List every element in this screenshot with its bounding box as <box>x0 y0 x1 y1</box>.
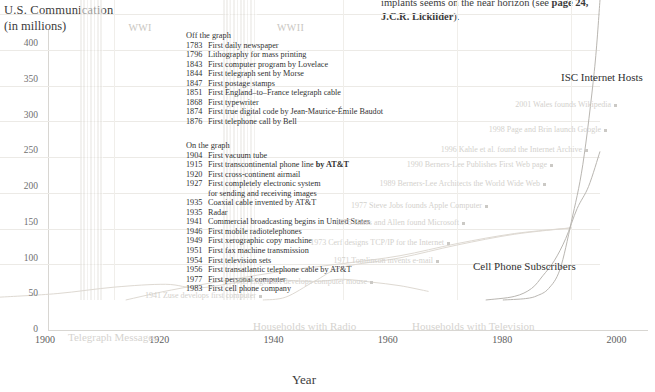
annotation-marker-dot <box>436 260 439 263</box>
off-the-graph-list: Off the graph 1783First daily newspaper1… <box>186 31 383 126</box>
annotation-internet-archive: 1996 Kahle et al. found the Internet Arc… <box>0 145 588 154</box>
list-item-year: 1847 <box>186 79 208 89</box>
annotation-label: 1963 Engelbart develops computer mouse <box>232 277 367 286</box>
x-axis-tick-label: 2000 <box>606 334 626 345</box>
annotation-marker-dot <box>543 183 546 186</box>
annotation-google: 1998 Page and Brin launch Google <box>0 125 607 134</box>
list-item-text: First cross-continent airmail <box>208 170 300 179</box>
series-label-telegraph-messages: Telegraph Messages <box>68 331 157 343</box>
y-axis-tick-label: 0 <box>0 324 38 334</box>
x-axis-title: Year <box>292 372 316 388</box>
annotation-label: 1989 Berners-Lee Architects the World Wi… <box>379 179 540 188</box>
list-item-year: 1844 <box>186 69 208 79</box>
list-item-text: First mobile radiotelephones <box>208 227 302 236</box>
annotation-label: 1973 Cerf designs TCP/IP for the Interne… <box>310 238 444 247</box>
annotation-label: 1996 Kahle et al. found the Internet Arc… <box>441 145 582 154</box>
annotation-wikipedia: 2001 Wales founds Wikipedia <box>0 100 617 109</box>
list-item: 1851First England–to–France telegraph ca… <box>186 88 383 98</box>
annotation-apple: 1977 Steve Jobs founds Apple Computer <box>0 201 488 210</box>
list-item: 1920First cross-continent airmail <box>186 170 370 180</box>
list-item-year: 1946 <box>186 227 208 237</box>
list-item: for sending and receiving images <box>186 189 370 199</box>
annotation-zuse: 1941 Zuse develops first computer <box>0 291 262 300</box>
list-item: 1951First fax machine transmission <box>186 246 370 256</box>
y-axis-tick-label: 350 <box>0 74 38 84</box>
list-item: 1843First computer program by Lovelace <box>186 60 383 70</box>
annotation-label: 1941 Zuse develops first computer <box>145 291 256 300</box>
list-item-year: 1783 <box>186 41 208 51</box>
x-axis-tick-label: 1960 <box>378 334 398 345</box>
list-item: 1783First daily newspaper <box>186 41 383 51</box>
y-axis-tick-label: 300 <box>0 110 38 120</box>
list-item-year: 1851 <box>186 88 208 98</box>
series-label-households-with-television: Households with Television <box>412 320 534 332</box>
war-band-label-wwi: WWI <box>128 22 151 33</box>
off-the-graph-header: Off the graph <box>186 31 383 41</box>
annotation-marker-dot <box>614 104 617 107</box>
series-line-cell-phone-subscribers <box>486 151 600 300</box>
annotation-marker-dot <box>485 205 488 208</box>
annotation-marker-dot <box>370 281 373 284</box>
list-item-text: First fax machine transmission <box>208 246 309 255</box>
list-item-text: for sending and receiving images <box>208 189 317 198</box>
annotation-marker-dot <box>585 149 588 152</box>
list-item-text: First daily newspaper <box>208 41 279 50</box>
annotation-label: 1971 Tomlinson invents e-mail <box>333 256 433 265</box>
list-item-year: 1951 <box>186 246 208 256</box>
series-label-cell-phone-subscribers: Cell Phone Subscribers <box>473 260 576 272</box>
annotation-label: 2001 Wales founds Wikipedia <box>515 100 611 109</box>
list-item: 1946First mobile radiotelephones <box>186 227 370 237</box>
annotation-marker-dot <box>447 242 450 245</box>
list-item: 1844First telegraph sent by Morse <box>186 69 383 79</box>
annotation-marker-dot <box>604 129 607 132</box>
x-axis-tick-label: 1980 <box>492 334 512 345</box>
list-item-year: 1920 <box>186 170 208 180</box>
annotation-email: 1971 Tomlinson invents e-mail <box>0 256 439 265</box>
list-item-year: 1796 <box>186 50 208 60</box>
list-item: 1796Lithography for mass printing <box>186 50 383 60</box>
annotation-mouse: 1963 Engelbart develops computer mouse <box>0 277 373 286</box>
list-item-text: First transatlantic telephone cable by A… <box>208 265 351 274</box>
list-item-text: First postage stamps <box>208 79 275 88</box>
annotation-label: 1977 Steve Jobs founds Apple Computer <box>351 201 482 210</box>
list-item-text: First telegraph sent by Morse <box>208 69 304 78</box>
annotation-first-web-page: 1990 Berners-Lee Publishes First Web pag… <box>0 160 553 169</box>
annotation-marker-dot <box>550 164 553 167</box>
list-item-text: Lithography for mass printing <box>208 50 306 59</box>
list-item-text: First England–to–France telegraph cable <box>208 88 341 97</box>
series-label-households-with-radio: Households with Radio <box>253 320 356 332</box>
annotation-tcp-ip: 1973 Cerf designs TCP/IP for the Interne… <box>0 238 450 247</box>
annotation-marker-dot <box>462 222 465 225</box>
annotation-label: 1975 Gates and Allen found Microsoft <box>336 218 459 227</box>
series-label-isc-internet-hosts: ISC Internet Hosts <box>561 71 643 83</box>
annotation-label: 1998 Page and Brin launch Google <box>489 125 601 134</box>
y-axis-tick-label: 400 <box>0 38 38 48</box>
list-item: 1956First transatlantic telephone cable … <box>186 265 370 275</box>
list-item-text: First computer program by Lovelace <box>208 60 328 69</box>
x-axis-tick-label: 1900 <box>35 334 55 345</box>
annotation-world-wide-web: 1989 Berners-Lee Architects the World Wi… <box>0 179 546 188</box>
list-item: 1847First postage stamps <box>186 79 383 89</box>
list-item-year: 1843 <box>186 60 208 70</box>
x-axis-tick-label: 1940 <box>264 334 284 345</box>
annotation-microsoft: 1975 Gates and Allen found Microsoft <box>0 218 465 227</box>
annotation-label: 1990 Berners-Lee Publishes First Web pag… <box>407 160 547 169</box>
annotation-marker-dot <box>259 295 262 298</box>
list-item-year: 1956 <box>186 265 208 275</box>
